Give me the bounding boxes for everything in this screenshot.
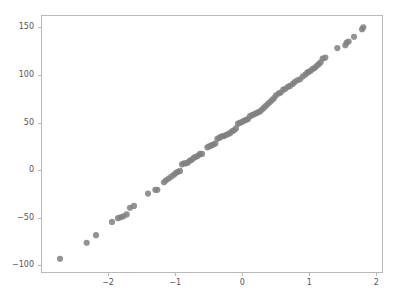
y-tick-label: 0	[8, 166, 34, 174]
scatter-point	[124, 211, 130, 217]
scatter-point	[346, 38, 352, 44]
x-tick-mark	[175, 273, 176, 276]
scatter-point	[154, 187, 160, 193]
scatter-point	[360, 24, 366, 30]
y-tick-mark	[38, 75, 41, 76]
y-tick-mark	[38, 218, 41, 219]
scatter-point	[131, 203, 137, 209]
y-tick-mark	[38, 123, 41, 124]
y-tick-label: 150	[8, 23, 34, 31]
x-tick-mark	[376, 273, 377, 276]
y-tick-mark	[38, 27, 41, 28]
x-tick-label: 1	[307, 279, 312, 287]
y-tick-label: −50	[8, 214, 34, 222]
scatter-point	[199, 151, 205, 157]
scatter-point	[57, 256, 63, 262]
x-tick-mark	[309, 273, 310, 276]
scatter-point	[109, 219, 115, 225]
y-tick-label: 100	[8, 71, 34, 79]
figure-canvas: −100−50050100150 −2−1012	[0, 0, 404, 300]
x-tick-label: −2	[102, 279, 114, 287]
scatter-point	[84, 240, 90, 246]
y-tick-mark	[38, 170, 41, 171]
scatter-point	[351, 34, 357, 40]
y-tick-label: 50	[8, 119, 34, 127]
scatter-series	[42, 16, 382, 272]
x-tick-label: 2	[374, 279, 379, 287]
y-tick-label: −100	[8, 261, 34, 269]
x-tick-label: 0	[240, 279, 245, 287]
scatter-point-group	[57, 24, 366, 262]
scatter-point	[145, 191, 151, 197]
scatter-point	[322, 54, 328, 60]
scatter-point	[334, 45, 340, 51]
scatter-point	[93, 232, 99, 238]
scatter-point	[177, 168, 183, 174]
plot-area	[41, 15, 383, 273]
x-tick-mark	[242, 273, 243, 276]
x-tick-mark	[108, 273, 109, 276]
y-tick-mark	[38, 265, 41, 266]
x-tick-label: −1	[169, 279, 181, 287]
